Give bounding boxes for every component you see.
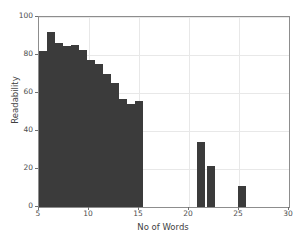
bar	[71, 45, 79, 207]
bar	[135, 101, 143, 207]
bar	[207, 166, 215, 207]
x-tick-mark	[138, 207, 139, 210]
bars-container	[39, 17, 289, 207]
bar	[47, 32, 55, 207]
bar	[63, 46, 71, 208]
x-axis-label: No of Words	[38, 222, 288, 232]
bar	[103, 74, 111, 207]
y-tick-label: 40	[3, 126, 33, 134]
bar	[119, 99, 127, 207]
x-tick-label: 5	[25, 209, 51, 218]
x-tick-mark	[38, 207, 39, 210]
y-tick-label: 80	[3, 50, 33, 58]
x-tick-label: 20	[175, 209, 201, 218]
y-tick-mark	[35, 54, 38, 55]
x-tick-label: 15	[125, 209, 151, 218]
bar	[79, 50, 87, 207]
bar	[127, 104, 135, 207]
plot-area	[38, 16, 290, 208]
bar	[95, 64, 103, 207]
y-tick-mark	[35, 16, 38, 17]
y-tick-mark	[35, 168, 38, 169]
y-tick-mark	[35, 92, 38, 93]
bar	[111, 83, 119, 207]
y-tick-mark	[35, 130, 38, 131]
bar	[39, 51, 47, 207]
bar	[87, 60, 95, 207]
x-tick-mark	[238, 207, 239, 210]
x-tick-label: 30	[275, 209, 301, 218]
chart-figure: Readability 020406080100 51015202530 No …	[0, 0, 302, 243]
bar	[197, 142, 205, 207]
y-tick-label: 60	[3, 88, 33, 96]
x-tick-mark	[288, 207, 289, 210]
bar	[55, 43, 63, 207]
x-tick-mark	[188, 207, 189, 210]
bar	[238, 186, 246, 207]
x-tick-label: 10	[75, 209, 101, 218]
x-tick-label: 25	[225, 209, 251, 218]
x-tick-mark	[88, 207, 89, 210]
y-tick-label: 100	[3, 12, 33, 20]
y-tick-label: 20	[3, 164, 33, 172]
